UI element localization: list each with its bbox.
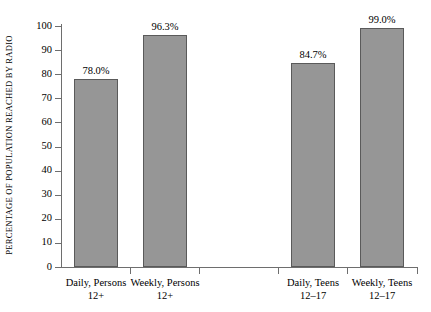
y-axis-tick bbox=[55, 171, 61, 172]
y-axis-tick-label: 100 bbox=[12, 21, 52, 32]
bar-value-label: 99.0% bbox=[347, 14, 417, 25]
bar-value-label: 78.0% bbox=[61, 65, 131, 76]
y-axis-tick-label: 60 bbox=[12, 117, 52, 128]
bar-value-label: 84.7% bbox=[278, 49, 348, 60]
category-label-line2: 12+ bbox=[120, 289, 210, 302]
y-axis-line bbox=[61, 24, 62, 268]
x-axis-tick bbox=[199, 268, 200, 274]
y-axis-tick-label: 20 bbox=[12, 213, 52, 224]
y-axis-tick-label: 30 bbox=[12, 189, 52, 200]
y-axis-tick-label: 90 bbox=[12, 45, 52, 56]
y-axis-tick bbox=[55, 26, 61, 27]
y-axis-tick-label: 10 bbox=[12, 237, 52, 248]
x-axis-tick bbox=[278, 268, 279, 274]
y-axis-tick-label: 50 bbox=[12, 141, 52, 152]
x-axis-category-label: Weekly, Persons12+ bbox=[120, 276, 210, 302]
bar bbox=[143, 35, 187, 267]
x-axis-tick bbox=[347, 268, 348, 274]
y-axis-tick bbox=[55, 243, 61, 244]
y-axis-tick bbox=[55, 219, 61, 220]
y-axis-tick bbox=[55, 147, 61, 148]
y-axis-tick bbox=[55, 122, 61, 123]
y-axis-tick-label: 80 bbox=[12, 69, 52, 80]
bar bbox=[360, 28, 404, 267]
bar-value-label: 96.3% bbox=[130, 21, 200, 32]
bar-chart: PERCENTAGE OF POPULATION REACHED BY RADI… bbox=[0, 0, 431, 312]
y-axis-tick bbox=[55, 267, 61, 268]
y-axis-tick bbox=[55, 195, 61, 196]
y-axis-tick-label: 0 bbox=[12, 262, 52, 273]
x-axis-tick bbox=[417, 268, 418, 274]
y-axis-tick bbox=[55, 98, 61, 99]
x-axis-line bbox=[61, 267, 418, 268]
category-label-line2: 12–17 bbox=[337, 289, 427, 302]
x-axis-category-label: Weekly, Teens12–17 bbox=[337, 276, 427, 302]
y-axis-tick bbox=[55, 50, 61, 51]
category-label-line1: Weekly, Teens bbox=[337, 276, 427, 289]
bar bbox=[291, 63, 335, 267]
bar bbox=[74, 79, 118, 267]
category-label-line1: Weekly, Persons bbox=[120, 276, 210, 289]
y-axis-tick-label: 70 bbox=[12, 93, 52, 104]
y-axis-tick-label: 40 bbox=[12, 165, 52, 176]
x-axis-tick bbox=[130, 268, 131, 274]
